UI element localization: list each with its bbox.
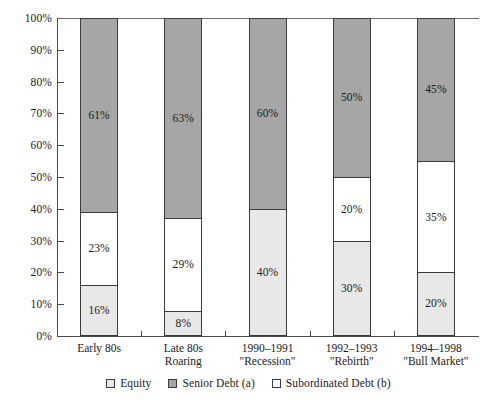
y-axis-tick-label: 40%: [31, 203, 52, 215]
y-axis-tick-label: 10%: [31, 298, 52, 310]
bar-group[interactable]: 16%23%61%: [80, 18, 118, 336]
legend-item-senior[interactable]: Senior Debt (a): [168, 377, 254, 389]
y-axis-labels: 0%10%20%30%40%50%60%70%80%90%100%: [0, 0, 52, 402]
y-axis-tick-mark: [58, 177, 64, 178]
y-axis-tick-label: 50%: [31, 171, 52, 183]
y-axis-tick-label: 30%: [31, 235, 52, 247]
x-axis-category-line: "Bull Market": [403, 355, 468, 368]
x-axis-category-line: 1994–1998: [403, 342, 468, 355]
y-axis-tick-mark: [58, 50, 64, 51]
bar-segment-value-label: 60%: [257, 108, 278, 120]
bar-segment-value-label: 63%: [173, 113, 194, 125]
bar-segment-value-label: 23%: [88, 243, 109, 255]
bar-segment-value-label: 61%: [88, 110, 109, 122]
bar-group[interactable]: 40%60%: [249, 18, 287, 336]
x-axis-category-label: 1990–1991"Recession": [239, 342, 295, 367]
bar-segment-equity[interactable]: 40%: [249, 209, 287, 336]
legend-label: Subordinated Debt (b): [286, 377, 391, 389]
y-axis-tick-label: 60%: [31, 139, 52, 151]
bar-group[interactable]: 20%35%45%: [417, 18, 455, 336]
x-axis-category-line: Early 80s: [77, 342, 121, 355]
legend-swatch-equity: [106, 379, 115, 388]
y-axis-tick-label: 0%: [36, 330, 52, 342]
x-axis-category-line: "Recession": [239, 355, 295, 368]
bar-segment-value-label: 45%: [425, 84, 446, 96]
stacked-bar[interactable]: 8%29%63%: [164, 18, 202, 336]
legend-swatch-senior: [168, 379, 177, 388]
y-axis-tick-mark: [58, 241, 64, 242]
x-axis-category-line: Roaring: [164, 355, 203, 368]
stacked-bar-chart-figure: 0%10%20%30%40%50%60%70%80%90%100% 16%23%…: [0, 0, 497, 402]
x-axis-tick-mark: [394, 331, 395, 337]
stacked-bar[interactable]: 16%23%61%: [80, 18, 118, 336]
bar-segment-subordinated[interactable]: 29%: [164, 218, 202, 310]
bar-segment-senior[interactable]: 50%: [333, 18, 371, 177]
bar-segment-equity[interactable]: 16%: [80, 285, 118, 336]
bar-segment-subordinated[interactable]: 23%: [80, 212, 118, 285]
x-axis-category-line: 1992–1993: [326, 342, 378, 355]
x-axis-category-line: 1990–1991: [239, 342, 295, 355]
legend-item-subordinated[interactable]: Subordinated Debt (b): [272, 377, 391, 389]
y-axis-tick-label: 100%: [25, 12, 52, 24]
legend-label: Senior Debt (a): [182, 377, 254, 389]
y-axis-tick-mark: [58, 113, 64, 114]
bar-segment-senior[interactable]: 45%: [417, 18, 455, 161]
bar-segment-equity[interactable]: 8%: [164, 311, 202, 336]
bar-segment-value-label: 40%: [257, 267, 278, 279]
stacked-bar[interactable]: 40%60%: [249, 18, 287, 336]
y-axis-tick-label: 20%: [31, 266, 52, 278]
x-axis-category-line: Late 80s: [164, 342, 203, 355]
stacked-bar[interactable]: 30%20%50%: [333, 18, 371, 336]
bar-segment-value-label: 16%: [88, 305, 109, 317]
y-axis-tick-label: 80%: [31, 76, 52, 88]
bar-segment-value-label: 20%: [341, 204, 362, 216]
x-axis-line: [57, 336, 479, 337]
legend-label: Equity: [120, 377, 151, 389]
bar-group[interactable]: 8%29%63%: [164, 18, 202, 336]
x-axis-category-label: 1994–1998"Bull Market": [403, 342, 468, 367]
x-axis-category-line: "Rebirth": [326, 355, 378, 368]
y-axis-tick-label: 90%: [31, 44, 52, 56]
bar-segment-senior[interactable]: 63%: [164, 18, 202, 218]
bar-segment-subordinated[interactable]: 35%: [417, 161, 455, 272]
bar-segment-subordinated[interactable]: 20%: [333, 177, 371, 241]
y-axis-tick-mark: [58, 145, 64, 146]
y-axis-tick-mark: [58, 82, 64, 83]
x-axis-tick-mark: [310, 331, 311, 337]
bar-segment-value-label: 30%: [341, 283, 362, 295]
x-axis-category-label: Early 80s: [77, 342, 121, 355]
y-axis-tick-mark: [58, 272, 64, 273]
x-axis-tick-mark: [141, 331, 142, 337]
bar-segment-value-label: 50%: [341, 92, 362, 104]
bar-segment-equity[interactable]: 20%: [417, 272, 455, 336]
chart-legend: EquitySenior Debt (a)Subordinated Debt (…: [0, 377, 497, 389]
bar-segment-value-label: 29%: [173, 259, 194, 271]
x-axis-category-label: 1992–1993"Rebirth": [326, 342, 378, 367]
bar-segment-value-label: 35%: [425, 212, 446, 224]
bar-segment-senior[interactable]: 60%: [249, 18, 287, 209]
plot-area: 16%23%61%8%29%63%40%60%30%20%50%20%35%45…: [57, 18, 478, 336]
y-axis-tick-mark: [58, 304, 64, 305]
bar-segment-value-label: 20%: [425, 298, 446, 310]
x-axis-tick-mark: [225, 331, 226, 337]
stacked-bar[interactable]: 20%35%45%: [417, 18, 455, 336]
y-axis-tick-label: 70%: [31, 107, 52, 119]
legend-item-equity[interactable]: Equity: [106, 377, 151, 389]
bar-segment-equity[interactable]: 30%: [333, 241, 371, 336]
bar-segment-senior[interactable]: 61%: [80, 18, 118, 212]
legend-swatch-subordinated: [272, 379, 281, 388]
x-axis-category-label: Late 80sRoaring: [164, 342, 203, 367]
y-axis-tick-mark: [58, 209, 64, 210]
bar-group[interactable]: 30%20%50%: [333, 18, 371, 336]
bar-segment-value-label: 8%: [176, 318, 192, 330]
